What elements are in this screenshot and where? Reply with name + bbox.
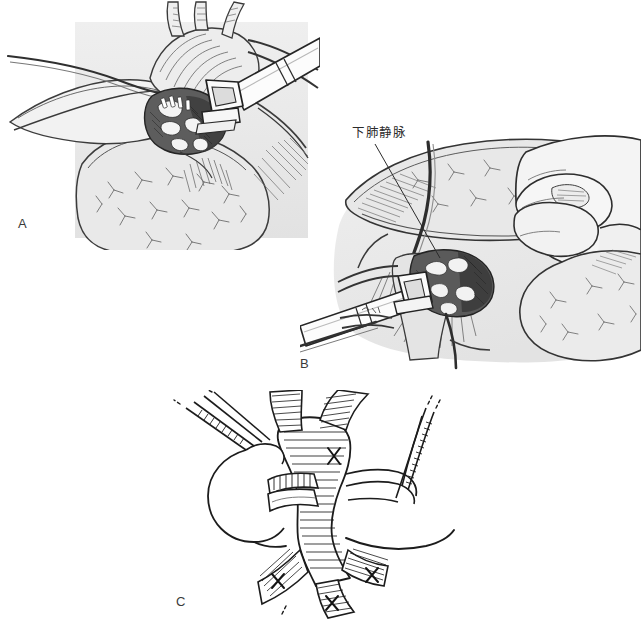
- panel-b-illustration: [300, 110, 641, 380]
- stapler-jaw-inner-slot: [212, 87, 236, 106]
- right-suture-tail: [346, 530, 454, 549]
- panel-a: A: [0, 0, 320, 250]
- ligature-loop-tail: [254, 542, 286, 547]
- surgeon-hand: [514, 136, 641, 269]
- left-instrument-shafts: [186, 392, 270, 450]
- right-tube-upper-2: [346, 482, 414, 504]
- ligature-loop-upper-cap: [246, 444, 284, 464]
- panel-letter-c: C: [176, 594, 186, 609]
- panel-letter-b: B: [300, 356, 309, 371]
- panel-a-illustration: [0, 0, 320, 250]
- panel-c: C: [150, 390, 460, 621]
- surgical-figure: A: [0, 0, 641, 621]
- right-tube-lower: [348, 499, 398, 502]
- panel-c-illustration: [150, 390, 460, 621]
- panel-b: B: [300, 110, 641, 380]
- panel-letter-a: A: [18, 216, 27, 231]
- left-instrument-braid: [198, 410, 244, 444]
- inferior-pulmonary-vein-label: 下肺静脉: [352, 122, 406, 141]
